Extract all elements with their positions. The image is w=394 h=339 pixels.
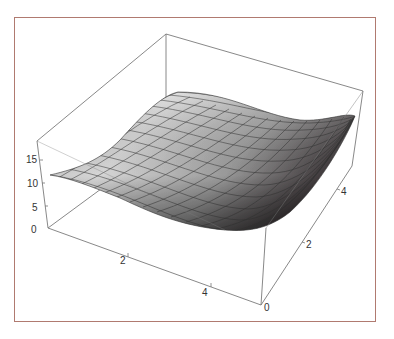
y-tick-2: 2 <box>306 239 312 250</box>
surface-plot: 15 10 5 0 2 4 0 2 4 <box>0 0 394 339</box>
x-axis-ticks <box>128 253 211 287</box>
surface <box>50 92 356 231</box>
y-tick-4: 4 <box>341 186 347 197</box>
x-tick-2: 2 <box>120 255 126 266</box>
z-tick-0: 0 <box>31 224 37 235</box>
z-tick-15: 15 <box>26 154 38 165</box>
y-axis-ticks <box>302 189 340 243</box>
z-tick-10: 10 <box>27 178 39 189</box>
z-tick-5: 5 <box>32 202 38 213</box>
y-tick-0: 0 <box>264 302 270 313</box>
x-tick-4: 4 <box>202 287 208 298</box>
